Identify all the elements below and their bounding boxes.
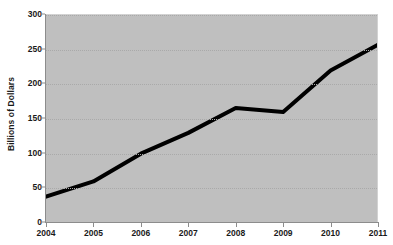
data-series-line — [46, 45, 378, 197]
x-tick-mark — [46, 223, 47, 227]
x-tick-label: 2011 — [369, 229, 387, 238]
gridline-y — [46, 154, 377, 155]
y-tick-mark — [41, 187, 45, 188]
x-tick-mark — [93, 223, 94, 227]
y-tick-mark — [41, 118, 45, 119]
gridline-y — [46, 188, 377, 189]
plot-area — [46, 14, 378, 222]
x-tick-mark — [378, 223, 379, 227]
x-tick-mark — [236, 223, 237, 227]
x-tick-mark — [283, 223, 284, 227]
y-tick-mark — [41, 83, 45, 84]
x-tick-mark — [141, 223, 142, 227]
y-tick-label: 150 — [28, 114, 42, 123]
x-axis-line — [45, 222, 379, 223]
x-tick-label: 2010 — [321, 229, 340, 238]
x-tick-mark — [331, 223, 332, 227]
y-tick-label: 300 — [28, 10, 42, 19]
y-axis-tick-labels: 050100150200250300 — [18, 14, 42, 222]
y-tick-mark — [41, 152, 45, 153]
y-tick-label: 250 — [28, 44, 42, 53]
x-tick-label: 2008 — [226, 229, 245, 238]
gridline-y — [46, 84, 377, 85]
y-tick-label: 100 — [28, 148, 42, 157]
y-tick-mark — [41, 14, 45, 15]
gridline-y — [46, 15, 377, 16]
gridline-y — [46, 119, 377, 120]
x-tick-label: 2009 — [274, 229, 293, 238]
x-tick-label: 2006 — [131, 229, 150, 238]
line-chart: Billions of Dollars 050100150200250300 2… — [0, 0, 393, 245]
x-tick-label: 2004 — [37, 229, 56, 238]
y-axis-title-label: Billions of Dollars — [6, 77, 16, 151]
gridline-y — [46, 50, 377, 51]
y-tick-label: 200 — [28, 79, 42, 88]
y-tick-mark — [41, 222, 45, 223]
y-tick-mark — [41, 48, 45, 49]
x-tick-mark — [188, 223, 189, 227]
x-tick-label: 2005 — [84, 229, 103, 238]
x-tick-label: 2007 — [179, 229, 198, 238]
